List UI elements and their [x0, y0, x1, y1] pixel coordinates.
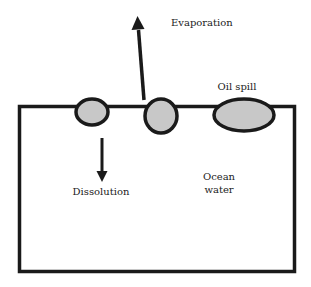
ocean-water-label-line1: Ocean: [203, 171, 236, 182]
evaporation-arrow: [132, 16, 145, 100]
oil-droplet-left: [76, 99, 108, 125]
evaporation-label: Evaporation: [171, 17, 233, 28]
ocean-water-label-line2: water: [204, 184, 233, 195]
oil-droplet-middle: [145, 99, 177, 133]
arrow-head-down-icon: [97, 171, 108, 182]
oil-spill-fate-diagram: Evaporation Oil spill Dissolution Ocean …: [0, 0, 311, 287]
arrow-head-up-icon: [132, 16, 145, 30]
oil-spill-slick: [214, 99, 274, 131]
oil-spill-label: Oil spill: [218, 81, 257, 92]
dissolution-arrow: [97, 138, 108, 182]
dissolution-label: Dissolution: [73, 186, 130, 197]
